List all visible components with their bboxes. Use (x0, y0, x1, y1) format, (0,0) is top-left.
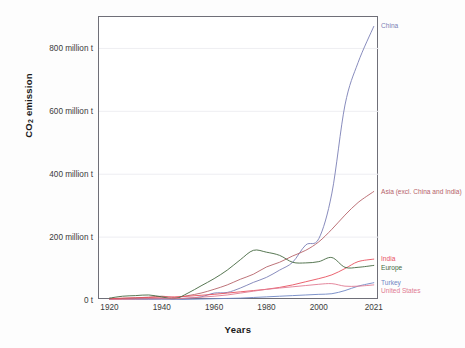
y-axis-tick-label: 600 million t (49, 107, 93, 116)
series-label-china: China (381, 23, 398, 30)
y-axis-title: CO2 emission (23, 46, 34, 166)
x-axis-tick-label: 2021 (365, 303, 383, 312)
series-label-united-states: United States (381, 288, 421, 295)
y-axis-tick-label: 400 million t (49, 170, 93, 179)
series-lines-canvas (99, 17, 379, 300)
y-axis-tick-label: 0 t (84, 296, 93, 305)
x-axis-tick-label: 1940 (153, 303, 171, 312)
co2-emission-line-chart: CO2 emission 0 t200 million t400 million… (0, 0, 465, 348)
y-axis-tick-label: 200 million t (49, 233, 93, 242)
x-axis-tick-label: 1920 (100, 303, 118, 312)
series-label-europe: Europe (381, 264, 402, 271)
y-axis-tick-label: 800 million t (49, 44, 93, 53)
series-label-asia-excl-china-and-india: Asia (excl. China and India) (381, 188, 462, 195)
series-label-turkey: Turkey (381, 279, 401, 286)
x-axis-tick-label: 2000 (310, 303, 328, 312)
series-line-asia-excl-china-and-india (109, 192, 373, 300)
x-axis-title: Years (98, 324, 378, 335)
series-label-india: India (381, 256, 395, 263)
x-axis-tick-label: 1980 (257, 303, 275, 312)
plot-area: 0 t200 million t400 million t600 million… (98, 16, 378, 299)
x-axis-tick-label: 1960 (205, 303, 223, 312)
